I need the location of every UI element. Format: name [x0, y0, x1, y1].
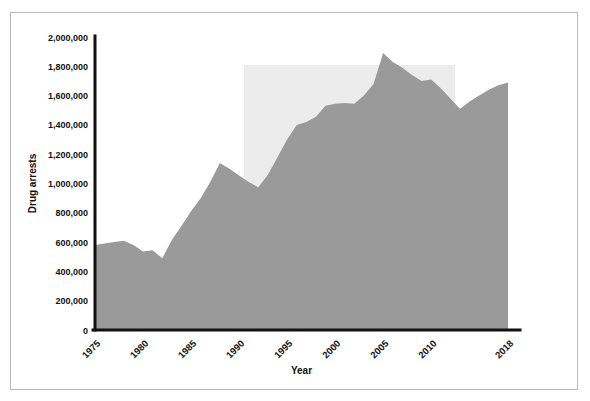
x-tick-label: 1985	[176, 337, 199, 360]
y-axis-tick-labels: 0200,000400,000600,000800,0001,000,0001,…	[48, 33, 88, 336]
y-tick-label: 2,000,000	[48, 33, 88, 43]
x-tick-label: 1980	[128, 338, 151, 361]
x-tick-label: 2010	[416, 338, 439, 361]
x-tick-label: 2005	[368, 337, 391, 360]
y-tick-label: 0	[83, 326, 88, 336]
x-tick-label: 1990	[224, 338, 247, 361]
y-tick-label: 1,600,000	[48, 91, 88, 101]
y-tick-label: 400,000	[55, 267, 88, 277]
x-axis-tick-labels: 197519801985199019952000200520102018	[80, 337, 516, 360]
y-tick-label: 200,000	[55, 296, 88, 306]
x-tick-label: 2018	[493, 338, 516, 361]
x-tick-label: 2000	[320, 338, 343, 361]
x-tick-label: 1975	[80, 337, 103, 360]
x-axis-title: Year	[291, 365, 312, 376]
y-tick-label: 1,000,000	[48, 179, 88, 189]
area-chart: 0200,000400,000600,000800,0001,000,0001,…	[0, 0, 590, 401]
y-tick-label: 1,400,000	[48, 120, 88, 130]
x-tick-label: 1995	[272, 337, 295, 360]
y-tick-label: 1,800,000	[48, 62, 88, 72]
y-tick-label: 800,000	[55, 208, 88, 218]
y-tick-label: 600,000	[55, 238, 88, 248]
plot-area: 0200,000400,000600,000800,0001,000,0001,…	[0, 0, 590, 401]
chart-figure: 0200,000400,000600,000800,0001,000,0001,…	[0, 0, 590, 401]
y-tick-label: 1,200,000	[48, 150, 88, 160]
y-axis-title: Drug arrests	[27, 153, 38, 213]
